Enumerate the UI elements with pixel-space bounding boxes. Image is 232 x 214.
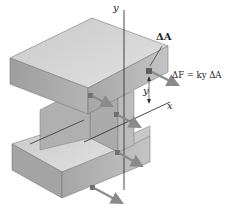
delta-a-label: ΔA — [156, 31, 172, 42]
force-equation-label: ΔF = ky ΔA — [172, 70, 222, 80]
y-dimension-arrow-bottom — [147, 99, 151, 104]
force-arrow-4 — [94, 188, 122, 203]
y-distance-label: y — [142, 85, 149, 96]
upper-flange — [10, 18, 168, 114]
y-axis-label: y — [112, 2, 119, 13]
i-beam-diagram: y ΔA ΔF = ky ΔA y x — [0, 0, 232, 214]
x-axis-label: x — [167, 100, 173, 111]
area-element-delta-a — [146, 68, 152, 74]
